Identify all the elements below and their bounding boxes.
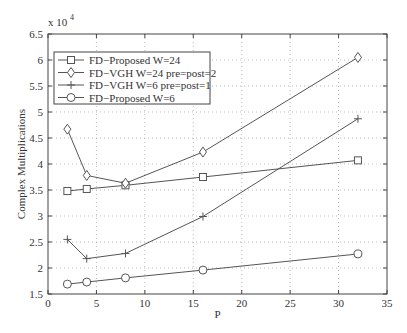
x-tick-label: 0: [45, 297, 51, 309]
y-axis-label: Complex Multiplications: [15, 109, 27, 219]
y-exponent-power: 4: [70, 13, 74, 22]
circle-marker: [83, 278, 91, 286]
y-tick-label: 4: [38, 158, 44, 170]
plus-marker: [121, 249, 129, 257]
circle-marker: [121, 274, 129, 282]
y-tick-label: 5.5: [29, 80, 43, 92]
circle-marker: [354, 250, 362, 258]
x-tick-label: 15: [188, 297, 200, 309]
circle-marker: [63, 280, 71, 288]
square-marker: [199, 174, 206, 181]
legend-label: FD−Proposed W=24: [89, 54, 181, 66]
legend-label: FD−VGH W=6 pre=post=1: [89, 79, 211, 91]
series-line: [67, 160, 358, 191]
legend-label: FD−VGH W=24 pre=post=2: [89, 67, 216, 79]
y-tick-label: 2.5: [29, 236, 43, 248]
series-square: [64, 157, 362, 195]
legend-label: FD−Proposed W=6: [89, 92, 175, 104]
circle-marker: [199, 266, 207, 274]
series-line: [67, 254, 358, 284]
y-tick-label: 3.5: [29, 184, 43, 196]
x-tick-label: 25: [285, 297, 297, 309]
series-line: [67, 119, 358, 259]
y-tick-label: 1.5: [29, 288, 43, 300]
series-plus: [63, 115, 362, 263]
y-exponent-label: x 10 4: [48, 13, 74, 28]
line-chart: 051015202530351.522.533.544.555.566.5 P …: [0, 0, 407, 333]
y-tick-label: 6.5: [29, 28, 43, 40]
y-exponent-base: x 10: [48, 16, 68, 28]
y-tick-label: 2: [38, 262, 44, 274]
plus-marker: [354, 115, 362, 123]
y-tick-label: 5: [38, 106, 44, 118]
diamond-marker: [83, 170, 90, 180]
x-tick-label: 30: [333, 297, 345, 309]
legend: FD−Proposed W=24FD−VGH W=24 pre=post=2FD…: [54, 52, 216, 104]
diamond-marker: [354, 52, 361, 62]
plus-marker: [199, 213, 207, 221]
y-tick-label: 3: [38, 210, 44, 222]
square-marker: [64, 188, 71, 195]
y-tick-label: 6: [38, 54, 44, 66]
x-tick-label: 35: [382, 297, 394, 309]
x-axis-label: P: [214, 308, 220, 320]
square-marker: [83, 185, 90, 192]
diamond-marker: [64, 124, 71, 134]
square-marker: [68, 57, 75, 64]
square-marker: [354, 157, 361, 164]
diamond-marker: [199, 147, 206, 157]
x-tick-label: 20: [236, 297, 248, 309]
circle-marker: [67, 94, 75, 102]
x-tick-label: 5: [94, 297, 100, 309]
x-tick-label: 10: [139, 297, 151, 309]
y-tick-label: 4.5: [29, 132, 43, 144]
